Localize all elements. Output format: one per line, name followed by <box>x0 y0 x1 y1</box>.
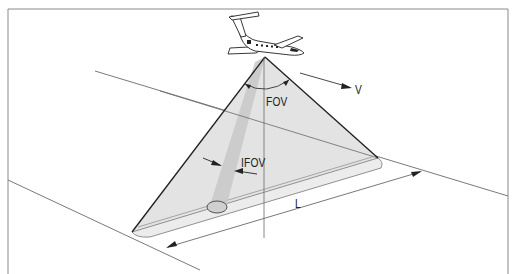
ifov-footprint-ellipse <box>207 201 227 213</box>
swath-length-arrowhead-right <box>411 171 422 177</box>
scanner-diagram <box>0 0 516 274</box>
aircraft-icon <box>228 12 304 55</box>
velocity-label: V <box>355 83 362 97</box>
velocity-arrow-line <box>300 73 349 87</box>
velocity-arrowhead <box>341 83 352 89</box>
fov-label: FOV <box>266 95 287 109</box>
swath-length-label: L <box>295 197 301 211</box>
swath-length-arrowhead-left <box>166 241 177 248</box>
ifov-label: IFOV <box>241 156 265 170</box>
